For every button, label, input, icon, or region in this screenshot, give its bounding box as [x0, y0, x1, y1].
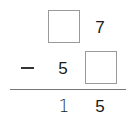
minuend-ones-digit: 7 — [93, 19, 107, 36]
answer-line — [10, 89, 126, 90]
minuend-tens-input-box[interactable] — [48, 10, 80, 43]
subtrahend-tens-digit: 5 — [56, 60, 70, 77]
result-tens-digit: 1 — [57, 98, 71, 115]
minus-sign-icon — [21, 67, 34, 69]
result-ones-digit: 5 — [93, 98, 107, 115]
subtrahend-ones-input-box[interactable] — [85, 51, 117, 84]
